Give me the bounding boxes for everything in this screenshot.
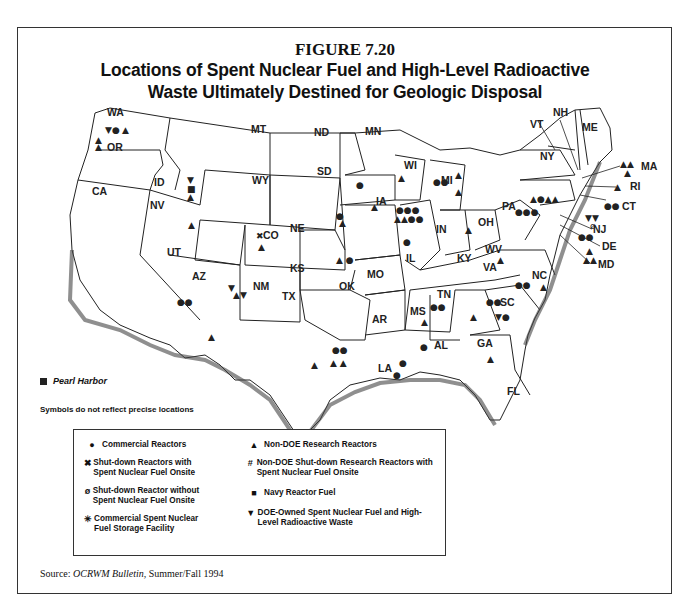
svg-text:▲▲: ▲▲: [583, 255, 597, 265]
svg-text:MT: MT: [251, 123, 267, 135]
slashed-circle-icon: ø: [82, 486, 93, 506]
svg-text:▲: ▲: [455, 170, 462, 180]
source-prefix: Source:: [40, 568, 73, 579]
svg-text:▲: ▲: [497, 255, 504, 265]
legend-label: Navy Reactor Fuel: [264, 488, 335, 498]
svg-text:KY: KY: [457, 252, 472, 264]
svg-text:▲: ▲: [188, 220, 195, 230]
svg-text:▲▲●●: ▲▲●●: [394, 214, 424, 224]
svg-text:MS: MS: [410, 305, 426, 317]
legend-label: Non-DOE Shut-down Research Reactors with…: [257, 458, 434, 478]
svg-text:●●: ●●: [332, 345, 348, 355]
svg-text:DE: DE: [602, 240, 617, 252]
svg-text:▲: ▲: [487, 354, 494, 364]
svg-text:▲: ▲: [371, 202, 378, 212]
legend-item-shutdown-without-fuel: ø Shut-down Reactor without Spent Nuclea…: [82, 486, 207, 506]
map-note: Symbols do not reflect precise locations: [40, 405, 194, 414]
legend-label: Commercial Reactors: [102, 440, 186, 450]
svg-text:▲: ▲: [95, 142, 102, 152]
svg-text:FL: FL: [507, 385, 520, 397]
svg-text:✖: ✖: [256, 231, 264, 241]
source-date: Summer/Fall 1994: [146, 568, 223, 579]
hash-icon: #: [244, 458, 257, 478]
svg-text:WI: WI: [404, 159, 417, 171]
svg-text:CO: CO: [263, 229, 279, 241]
svg-text:TX: TX: [282, 290, 295, 302]
svg-text:▲: ▲: [614, 182, 621, 192]
square-icon: ■: [244, 488, 264, 498]
svg-text:▼●: ▼●: [495, 312, 510, 322]
legend-item-navy-fuel: ■ Navy Reactor Fuel: [244, 488, 335, 498]
legend-item-shutdown-with-fuel: ✖ Shut-down Reactors with Spent Nuclear …: [82, 458, 207, 478]
svg-text:▲: ▲: [122, 125, 129, 135]
svg-text:NY: NY: [540, 150, 555, 162]
svg-text:▲: ▲: [311, 360, 318, 370]
svg-text:●●: ●●: [578, 232, 594, 242]
svg-text:RI: RI: [630, 180, 641, 192]
asterisk-icon: ✳: [82, 514, 94, 534]
svg-text:NC: NC: [532, 269, 548, 281]
svg-text:AL: AL: [434, 339, 449, 351]
svg-text:▲▼: ▲▼: [233, 290, 247, 300]
svg-text:●: ●: [403, 237, 411, 247]
legend-label: Shut-down Reactor without Spent Nuclear …: [93, 486, 207, 506]
filled-circle-icon: ●: [82, 440, 102, 450]
x-mark-icon: ✖: [82, 458, 93, 478]
svg-text:●●: ●●: [515, 280, 531, 290]
source-publication: OCRWM Bulletin,: [73, 568, 146, 579]
svg-text:AZ: AZ: [192, 270, 207, 282]
svg-text:▲: ▲: [465, 225, 472, 235]
svg-text:WA: WA: [107, 106, 124, 118]
svg-text:NM: NM: [253, 280, 270, 292]
legend-item-commercial-reactors: ● Commercial Reactors: [82, 440, 186, 450]
svg-text:▲: ▲: [208, 332, 215, 342]
svg-text:KS: KS: [290, 262, 305, 274]
svg-text:●●●: ●●●: [515, 207, 539, 217]
svg-text:OH: OH: [478, 216, 494, 228]
svg-text:NH: NH: [553, 106, 568, 118]
svg-text:▲: ▲: [624, 168, 631, 178]
svg-text:SD: SD: [317, 165, 332, 177]
pearl-harbor-label: Pearl Harbor: [53, 376, 107, 386]
triangle-up-icon: ▲: [244, 440, 264, 450]
legend-item-non-doe-shutdown: # Non-DOE Shut-down Research Reactors wi…: [244, 458, 434, 478]
legend-label: Non-DOE Research Reactors: [264, 440, 377, 450]
svg-text:●: ●: [356, 180, 364, 190]
svg-text:MN: MN: [365, 125, 381, 137]
svg-text:ME: ME: [582, 121, 598, 133]
svg-text:ø: ø: [590, 221, 596, 231]
svg-text:GA: GA: [477, 337, 493, 349]
svg-text:SC: SC: [500, 296, 515, 308]
legend-label: DOE-Owned Spent Nuclear Fuel and High-Le…: [258, 508, 434, 528]
svg-text:●●: ●●: [433, 177, 449, 187]
svg-text:▲: ▲: [470, 312, 477, 322]
svg-text:▲: ▲: [455, 187, 462, 197]
svg-text:CT: CT: [622, 200, 637, 212]
legend-item-doe-owned: ▼ DOE-Owned Spent Nuclear Fuel and High-…: [244, 508, 434, 528]
svg-text:▲●▲▲: ▲●▲▲: [530, 194, 559, 204]
svg-text:LA: LA: [378, 362, 392, 374]
svg-text:●●: ●●: [604, 201, 620, 211]
svg-text:TN: TN: [437, 288, 451, 300]
svg-text:●: ●: [420, 342, 428, 352]
svg-text:▲: ▲: [540, 282, 547, 292]
source-citation: Source: OCRWM Bulletin, Summer/Fall 1994: [40, 568, 223, 579]
legend-item-storage-facility: ✳ Commercial Spent Nuclear Fuel Storage …: [82, 514, 207, 534]
svg-text:MO: MO: [367, 268, 384, 280]
svg-text:UT: UT: [167, 246, 182, 258]
svg-text:ND: ND: [314, 126, 330, 138]
svg-text:▲: ▲: [339, 218, 346, 228]
svg-text:●●: ●●: [486, 297, 502, 307]
svg-text:NV: NV: [150, 199, 165, 211]
svg-text:▲ ▲: ▲ ▲: [330, 358, 347, 368]
svg-text:AR: AR: [372, 313, 388, 325]
svg-text:OR: OR: [107, 141, 123, 153]
svg-text:▲: ▲: [187, 192, 194, 202]
svg-text:VA: VA: [483, 261, 497, 273]
legend-item-non-doe-research: ▲ Non-DOE Research Reactors: [244, 440, 377, 450]
svg-text:IN: IN: [436, 223, 447, 235]
svg-text:●●: ●●: [430, 302, 446, 312]
svg-text:OK: OK: [339, 280, 355, 292]
svg-text:MD: MD: [598, 258, 615, 270]
svg-text:ID: ID: [154, 176, 165, 188]
